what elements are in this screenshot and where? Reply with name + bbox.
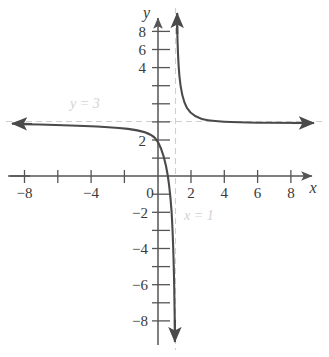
x-axis-label: x (308, 179, 316, 196)
origin-label: 0 (146, 185, 154, 201)
graph-canvas: −8 −4 2 4 6 8 0 8 6 4 2 −2 −4 −6 −8 y x … (0, 0, 329, 357)
y-tick-label: 2 (139, 133, 147, 149)
curve-left-branch (22, 124, 175, 330)
y-tick-label: 8 (139, 24, 147, 40)
x-tick-label: −8 (17, 185, 33, 201)
y-tick-label: −6 (132, 277, 148, 293)
y-tick-label: −4 (132, 241, 148, 257)
x-tick-label: 8 (287, 185, 295, 201)
x-tick-label: −4 (83, 185, 99, 201)
asymptote-lines (6, 8, 322, 350)
y-tick-label: 6 (139, 42, 147, 58)
rational-function-graph: −8 −4 2 4 6 8 0 8 6 4 2 −2 −4 −6 −8 y x … (0, 0, 329, 357)
x-tick-label: 4 (221, 185, 229, 201)
horizontal-asymptote-label: y = 3 (68, 96, 100, 111)
vertical-asymptote-label: x = 1 (183, 208, 214, 223)
x-tick-labels: −8 −4 2 4 6 8 0 (17, 185, 295, 201)
y-tick-label: −8 (132, 313, 148, 329)
y-tick-label: 4 (139, 60, 147, 76)
y-axis-label: y (141, 4, 151, 22)
y-tick-label: −2 (132, 205, 148, 221)
x-tick-label: 6 (254, 185, 262, 201)
x-tick-label: 2 (187, 185, 195, 201)
curve-right-branch (177, 26, 304, 123)
